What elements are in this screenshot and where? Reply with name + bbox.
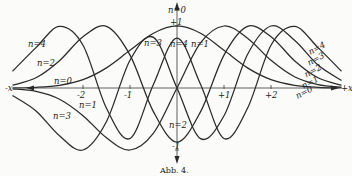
label-center-n2: n=2: [169, 120, 187, 130]
right-labels: n=4 n=3 n=2 n=1 n=0: [278, 39, 342, 100]
label-center-n4: n=4: [170, 39, 188, 49]
x-axis-neg-label: -x: [5, 83, 13, 93]
x-tick-label: +1: [218, 90, 231, 100]
x-tick-label: +2: [265, 90, 278, 100]
label-left-n4: n=4: [28, 39, 46, 49]
label-left-n0: n=0: [54, 76, 73, 86]
label-center-plus1: +1: [170, 17, 183, 27]
x-tick-label: -2: [77, 90, 85, 100]
label-left-n3: n=3: [53, 111, 71, 121]
label-center-n0: n=0: [168, 5, 187, 15]
y-tick-label-minus1: -1: [172, 141, 180, 151]
label-left-n1: n=1: [79, 100, 97, 110]
figure-caption: Abb. 4.: [159, 166, 189, 175]
label-center-n3: n=3: [144, 38, 162, 48]
y-axis-arrow-down: [175, 156, 180, 164]
label-left-n2: n=2: [37, 58, 55, 68]
hermite-functions-figure: -2-1+1+2 -x +x n=0 +1 n=3 n=4 n=1 n=2 -1…: [0, 0, 352, 176]
x-axis-pos-label: +x: [341, 83, 352, 93]
label-center-n1: n=1: [191, 39, 209, 49]
x-tick-label: -1: [124, 90, 132, 100]
